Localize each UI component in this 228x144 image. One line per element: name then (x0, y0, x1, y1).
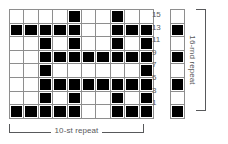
chart-cell[interactable] (53, 50, 67, 64)
side-row (171, 37, 185, 51)
chart-cell[interactable] (10, 37, 24, 51)
chart-cell[interactable] (125, 50, 139, 64)
chart-cell[interactable] (38, 37, 52, 51)
chart-cell[interactable] (96, 105, 110, 119)
chart-cell[interactable] (24, 64, 38, 78)
chart-cell[interactable] (10, 105, 24, 119)
chart-cell[interactable] (81, 91, 95, 105)
chart-cell[interactable] (38, 105, 52, 119)
chart-cell[interactable] (10, 50, 24, 64)
side-cell[interactable] (171, 77, 185, 91)
chart-cell[interactable] (38, 23, 52, 37)
chart-cell[interactable] (24, 37, 38, 51)
chart-cell[interactable] (81, 64, 95, 78)
chart-cell[interactable] (38, 50, 52, 64)
chart-cell[interactable] (24, 105, 38, 119)
side-cell[interactable] (171, 37, 185, 51)
chart-cell[interactable] (125, 91, 139, 105)
chart-cell[interactable] (38, 91, 52, 105)
filled-stitch-icon (53, 105, 66, 118)
chart-cell[interactable] (67, 50, 81, 64)
chart-cell[interactable] (10, 64, 24, 78)
filled-stitch-icon (68, 92, 81, 105)
chart-cell[interactable] (67, 77, 81, 91)
empty-stitch-icon (24, 92, 37, 105)
chart-cell[interactable] (81, 77, 95, 91)
side-cell[interactable] (171, 64, 185, 78)
chart-cell[interactable] (125, 64, 139, 78)
chart-cell[interactable] (67, 37, 81, 51)
chart-cell[interactable] (53, 37, 67, 51)
chart-cell[interactable] (10, 23, 24, 37)
row-number-label: 5 (152, 72, 168, 85)
side-row (171, 50, 185, 64)
filled-stitch-icon (53, 24, 66, 37)
chart-cell[interactable] (96, 37, 110, 51)
empty-stitch-icon (171, 10, 184, 23)
chart-cell[interactable] (24, 91, 38, 105)
chart-cell[interactable] (110, 105, 124, 119)
chart-cell[interactable] (53, 64, 67, 78)
empty-stitch-icon (125, 92, 138, 105)
chart-cell[interactable] (125, 10, 139, 24)
chart-cell[interactable] (24, 77, 38, 91)
chart-cell[interactable] (24, 10, 38, 24)
chart-cell[interactable] (67, 105, 81, 119)
chart-cell[interactable] (53, 105, 67, 119)
chart-cell[interactable] (125, 37, 139, 51)
chart-cell[interactable] (81, 23, 95, 37)
chart-cell[interactable] (96, 10, 110, 24)
filled-stitch-icon (171, 105, 184, 118)
side-cell[interactable] (171, 105, 185, 119)
chart-cell[interactable] (81, 50, 95, 64)
chart-cell[interactable] (125, 105, 139, 119)
side-cell[interactable] (171, 50, 185, 64)
filled-stitch-icon (111, 24, 124, 37)
chart-cell[interactable] (67, 91, 81, 105)
chart-cell[interactable] (110, 23, 124, 37)
side-cell[interactable] (171, 91, 185, 105)
chart-cell[interactable] (81, 10, 95, 24)
row-number-label: 7 (152, 59, 168, 72)
chart-cell[interactable] (10, 91, 24, 105)
empty-stitch-icon (82, 24, 95, 37)
side-cell[interactable] (171, 23, 185, 37)
chart-cell[interactable] (24, 50, 38, 64)
row-number-label: 3 (152, 85, 168, 98)
chart-cell[interactable] (10, 77, 24, 91)
chart-cell[interactable] (96, 50, 110, 64)
round-repeat-column (170, 9, 185, 119)
chart-cell[interactable] (38, 10, 52, 24)
chart-cell[interactable] (38, 77, 52, 91)
chart-cell[interactable] (96, 91, 110, 105)
empty-stitch-icon (53, 10, 66, 23)
chart-cell[interactable] (110, 37, 124, 51)
chart-cell[interactable] (67, 10, 81, 24)
side-row (171, 91, 185, 105)
chart-cell[interactable] (96, 77, 110, 91)
chart-cell[interactable] (24, 23, 38, 37)
chart-cell[interactable] (53, 23, 67, 37)
chart-cell[interactable] (10, 10, 24, 24)
chart-cell[interactable] (125, 23, 139, 37)
filled-stitch-icon (39, 37, 52, 50)
chart-cell[interactable] (81, 105, 95, 119)
chart-cell[interactable] (110, 77, 124, 91)
chart-row (10, 23, 154, 37)
chart-cell[interactable] (53, 91, 67, 105)
chart-cell[interactable] (110, 50, 124, 64)
chart-cell[interactable] (67, 64, 81, 78)
chart-cell[interactable] (96, 64, 110, 78)
chart-cell[interactable] (53, 10, 67, 24)
chart-cell[interactable] (110, 10, 124, 24)
chart-cell[interactable] (125, 77, 139, 91)
chart-cell[interactable] (96, 23, 110, 37)
chart-cell[interactable] (110, 91, 124, 105)
side-cell[interactable] (171, 10, 185, 24)
chart-cell[interactable] (110, 64, 124, 78)
chart-cell[interactable] (53, 77, 67, 91)
chart-cell[interactable] (38, 64, 52, 78)
chart-cell[interactable] (81, 37, 95, 51)
filled-stitch-icon (171, 78, 184, 91)
chart-cell[interactable] (67, 23, 81, 37)
